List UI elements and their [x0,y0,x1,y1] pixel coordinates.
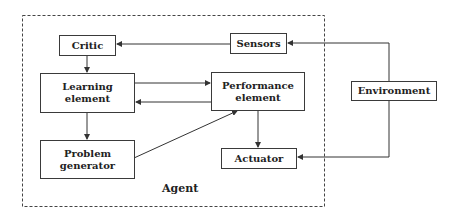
learning-element-node: Learning element [40,73,135,113]
actuator-node: Actuator [221,148,297,169]
problem-generator-node: Problem generator [40,140,135,179]
critic-node: Critic [59,35,116,56]
environment-node: Environment [351,81,437,101]
agent-diagram: Critic Sensors Learning element Performa… [0,0,456,219]
performance-element-node: Performance element [211,72,305,111]
sensors-node: Sensors [230,33,287,54]
agent-label: Agent [162,182,198,195]
edge-environment-actuator [298,100,389,157]
